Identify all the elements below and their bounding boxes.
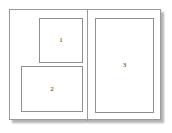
content-box-2[interactable]: 2 — [21, 66, 83, 112]
content-box-3[interactable]: 3 — [95, 18, 154, 113]
left-panel: 1 2 — [10, 10, 87, 121]
diagram-canvas: 1 2 3 — [0, 0, 172, 133]
content-box-2-label: 2 — [50, 86, 54, 93]
page-frame: 1 2 3 — [9, 9, 161, 120]
content-box-1[interactable]: 1 — [39, 18, 83, 63]
content-box-1-label: 1 — [59, 37, 63, 44]
content-box-3-label: 3 — [123, 62, 127, 69]
right-panel: 3 — [88, 10, 162, 121]
